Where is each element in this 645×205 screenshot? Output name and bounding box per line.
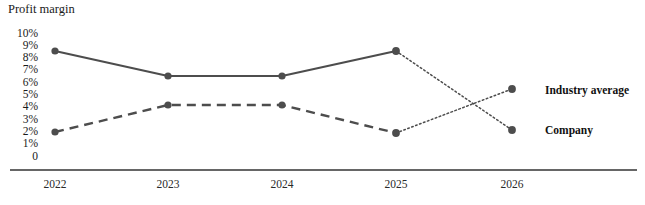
- x-axis-tick-2023: 2023: [138, 178, 198, 190]
- x-axis-tick-2026: 2026: [482, 178, 542, 190]
- industry-average-line: [55, 51, 396, 76]
- x-axis-tick-2025: 2025: [366, 178, 426, 190]
- company-forecast-line: [396, 89, 512, 133]
- data-point-industry-2026: [508, 126, 516, 134]
- data-point-industry-2025: [392, 47, 400, 55]
- legend-label-company: Company: [545, 124, 593, 136]
- x-axis-tick-2022: 2022: [25, 178, 85, 190]
- data-point-company-2023: [164, 101, 171, 108]
- company-line: [55, 105, 396, 133]
- data-point-company-2026: [508, 85, 516, 93]
- data-point-industry-2022: [51, 47, 58, 54]
- chart-plot-area: [0, 0, 645, 205]
- data-point-company-2024: [278, 101, 285, 108]
- data-point-industry-2024: [278, 72, 285, 79]
- legend-label-industry-average: Industry average: [545, 84, 629, 96]
- data-point-industry-2023: [164, 72, 171, 79]
- data-point-company-2022: [51, 128, 58, 135]
- data-point-company-2025: [392, 129, 400, 137]
- industry-average-forecast-line: [396, 51, 512, 130]
- profit-margin-chart: Profit margin 10% 9% 8% 7% 6% 5% 4% 3% 2…: [0, 0, 645, 205]
- x-axis-tick-2024: 2024: [252, 178, 312, 190]
